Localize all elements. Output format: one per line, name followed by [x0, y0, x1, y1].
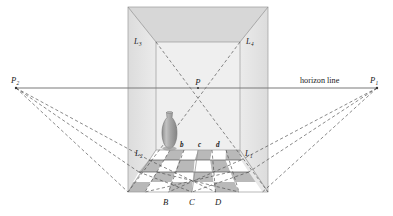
label-vanishing-right-base: P	[369, 75, 375, 85]
label-vanishing-left: P2	[10, 75, 20, 86]
label-vanishing-right: P1	[369, 75, 379, 86]
label-vanishing-right-sub: 1	[376, 80, 379, 86]
center-point-dot	[197, 87, 199, 89]
label-corner-back-right-sub: 4	[251, 41, 254, 47]
perspective-diagram: P2 P1 horizon line P L3 L4 L2 L1 b c d	[0, 0, 393, 216]
ray-p2-c	[16, 88, 128, 192]
floor-tile	[226, 150, 241, 160]
vanishing-point-right-dot	[376, 87, 378, 89]
ray-p2-b	[16, 88, 139, 172]
label-horizon-line: horizon line	[300, 76, 340, 85]
label-tile-C: C	[189, 197, 195, 207]
vase-base-shadow	[162, 147, 176, 151]
floor-tile	[172, 172, 194, 182]
label-vanishing-left-sub: 2	[17, 80, 20, 86]
label-floor-left-sub: 2	[140, 153, 143, 159]
ray-p1-c	[263, 88, 378, 192]
label-tile-d: d	[216, 141, 220, 149]
label-floor-right-sub: 1	[250, 153, 253, 159]
label-tile-b: b	[180, 141, 184, 149]
label-tile-B: B	[163, 197, 169, 207]
label-center-point: P	[194, 77, 200, 87]
vanishing-point-left-dot	[15, 87, 17, 89]
label-vanishing-left-base: P	[10, 75, 16, 85]
label-corner-back-left-sub: 3	[139, 41, 142, 47]
vase-rim	[166, 112, 172, 114]
label-tile-D: D	[214, 197, 222, 207]
